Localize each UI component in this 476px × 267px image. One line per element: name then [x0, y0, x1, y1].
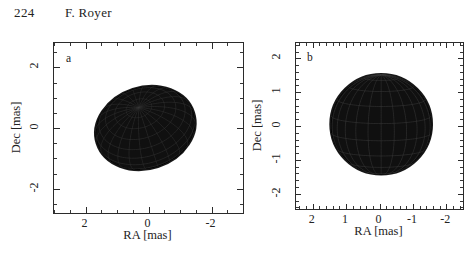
x-tick-b [339, 206, 340, 209]
x-tick-a [86, 43, 87, 49]
x-tick-b [380, 43, 381, 48]
y-tick-b [296, 92, 301, 93]
x-tick-a [164, 210, 165, 213]
y-tick-b [296, 72, 299, 73]
x-tick-a [227, 43, 228, 46]
x-axis-title-b: RA [mas] [295, 224, 462, 239]
y-tick-a [240, 83, 243, 84]
y-tick-a [240, 98, 243, 99]
y-tick-label-b: -2 [269, 179, 284, 205]
panel-letter-b: b [307, 51, 313, 63]
x-tick-a [101, 43, 102, 46]
y-tick-a [237, 128, 243, 129]
x-tick-b [373, 43, 374, 46]
x-tick-a [149, 207, 150, 213]
panel-letter-a: a [66, 52, 71, 64]
y-tick-b [460, 207, 463, 208]
x-tick-b [400, 43, 401, 46]
y-tick-a [54, 98, 57, 99]
y-tick-a [240, 143, 243, 144]
x-tick-a [180, 210, 181, 213]
x-tick-a [164, 43, 165, 46]
x-tick-b [353, 206, 354, 209]
x-tick-b [453, 43, 454, 46]
x-tick-b [306, 43, 307, 46]
y-tick-b [296, 58, 301, 59]
y-tick-a [237, 189, 243, 190]
y-tick-label-b: 2 [269, 44, 284, 70]
y-tick-b [460, 52, 463, 53]
x-tick-b [446, 43, 447, 48]
x-tick-a [133, 43, 134, 46]
x-tick-a [149, 43, 150, 49]
y-tick-b [460, 79, 463, 80]
y-tick-b [296, 45, 299, 46]
y-tick-a [54, 52, 57, 53]
y-axis-title-b: Dec [mas] [250, 86, 265, 166]
x-tick-b [326, 206, 327, 209]
x-tick-a [180, 43, 181, 46]
x-tick-b [440, 43, 441, 46]
star-disk-a [54, 43, 243, 213]
x-tick-a [196, 210, 197, 213]
x-tick-a [212, 43, 213, 49]
plot-frame-b: b [295, 42, 464, 210]
x-tick-b [313, 43, 314, 48]
panel-a: a 20-2 20-2 RA [mas] Dec [mas] [0, 30, 250, 267]
x-tick-b [360, 43, 361, 46]
y-tick-b [296, 167, 299, 168]
y-tick-b [296, 187, 299, 188]
y-tick-b [296, 52, 299, 53]
running-head: 224 F. Royer [14, 5, 454, 23]
y-tick-a [240, 174, 243, 175]
y-tick-label-a: 2 [27, 53, 42, 79]
x-tick-b [393, 43, 394, 46]
x-tick-b [440, 206, 441, 209]
y-tick-b [460, 99, 463, 100]
x-tick-b [299, 206, 300, 209]
y-tick-a [240, 113, 243, 114]
x-tick-b [360, 206, 361, 209]
panel-b: b 210-1-2 210-1-2 RA [mas] Dec [mas] [245, 30, 476, 267]
y-tick-b [460, 187, 463, 188]
y-tick-a [54, 67, 60, 68]
x-tick-b [346, 43, 347, 48]
x-tick-a [196, 43, 197, 46]
y-tick-a [54, 204, 57, 205]
x-tick-a [101, 210, 102, 213]
y-tick-a [54, 189, 60, 190]
x-tick-a [243, 43, 244, 46]
x-tick-b [453, 206, 454, 209]
x-tick-a [133, 210, 134, 213]
x-tick-b [313, 204, 314, 209]
x-tick-a [54, 43, 55, 46]
y-tick-b [460, 85, 463, 86]
y-tick-label-b: 0 [269, 112, 284, 138]
y-tick-b [296, 207, 299, 208]
y-tick-b [296, 173, 299, 174]
y-tick-b [458, 160, 463, 161]
x-tick-b [366, 206, 367, 209]
x-tick-b [413, 43, 414, 48]
y-tick-b [296, 79, 299, 80]
y-tick-b [296, 194, 301, 195]
y-tick-b [296, 85, 299, 86]
y-tick-label-b: -1 [269, 145, 284, 171]
x-tick-b [420, 206, 421, 209]
x-tick-b [433, 206, 434, 209]
y-tick-b [460, 140, 463, 141]
x-tick-a [70, 43, 71, 46]
x-tick-b [406, 43, 407, 46]
y-tick-a [240, 204, 243, 205]
y-tick-b [460, 119, 463, 120]
y-tick-label-a: 0 [27, 114, 42, 140]
x-tick-a [70, 210, 71, 213]
y-tick-b [458, 194, 463, 195]
x-tick-b [426, 43, 427, 46]
y-tick-b [296, 153, 299, 154]
y-tick-b [460, 146, 463, 147]
x-tick-b [333, 43, 334, 46]
x-tick-a [86, 207, 87, 213]
y-tick-b [296, 180, 299, 181]
x-tick-b [319, 43, 320, 46]
